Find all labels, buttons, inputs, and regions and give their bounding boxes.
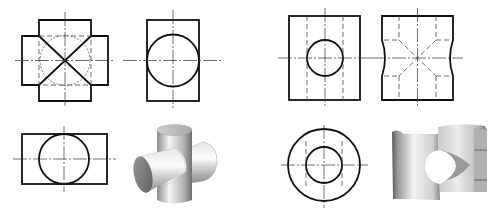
cross-part-side-view (123, 10, 222, 108)
hollow-part-side-view (372, 8, 463, 108)
hollow-part-top-view (281, 125, 368, 208)
engineering-drawing-canvas (0, 0, 499, 221)
cross-part-front-view (15, 12, 115, 108)
cross-part-isometric-model (130, 125, 217, 204)
hollow-part-isometric-model (392, 124, 487, 200)
cross-part-top-view (13, 126, 116, 192)
hollow-part-front-view (278, 8, 372, 108)
